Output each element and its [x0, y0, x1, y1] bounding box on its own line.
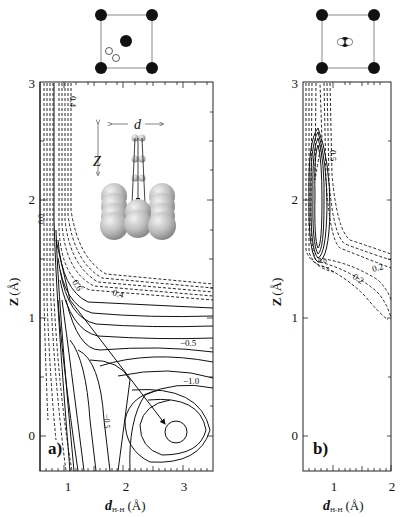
y-tick-label: 2: [292, 192, 299, 207]
y-tick-label: 1: [29, 310, 36, 325]
inset-schematic: Z d: [93, 117, 176, 240]
contour-label: −0.5: [180, 338, 197, 348]
hydrogen-atom-icon: [113, 55, 120, 62]
contour-label: 0.4: [111, 287, 125, 300]
contour-label: 0.2: [371, 261, 384, 274]
y-ticks-a: [40, 112, 213, 436]
positive-contours-b: [306, 83, 391, 320]
y-tick-label: 3: [29, 76, 36, 91]
y-tick-label: 0: [292, 428, 299, 443]
figure: 0.4 0.0 0.6 0.4 −0.5 −1.0 −0.5 Z d: [0, 0, 405, 517]
contour-label: 0.0: [318, 257, 327, 265]
x-tick-label: 1: [65, 479, 72, 494]
x-tick-label: 1: [331, 479, 338, 494]
positive-contours-a: [44, 83, 213, 471]
contour-label: −1.0: [183, 376, 200, 386]
x-axis-label-a: dH-H(Å): [105, 498, 146, 514]
surface-atom-icon: [95, 9, 107, 21]
hydrogen-atom-icon: [106, 48, 113, 55]
contour-label: −0.5: [102, 414, 111, 429]
contour-label: 0.4: [68, 96, 78, 108]
panel-b: 0.5 0.2 0.2 0.0 0 1 2 3 1 2 Z(Å) dH-H(Å)…: [269, 76, 395, 514]
surface-atom-icon: [368, 62, 380, 74]
panel-label-b: b): [313, 439, 328, 458]
surface-atom-icon: [95, 62, 107, 74]
schematic-b: [316, 9, 380, 74]
x-tick-label: 2: [389, 479, 396, 494]
hydrogen-atom-icon: [337, 38, 344, 45]
x-ticks-b: [309, 82, 391, 471]
negative-contours-a: [40, 82, 213, 471]
surface-atom-icon: [146, 62, 158, 74]
contour-label: 0.6: [70, 278, 85, 293]
y-tick-label: 2: [29, 192, 36, 207]
contour-label: 0.0: [37, 214, 46, 224]
y-axis-label-a: Z(Å): [6, 278, 21, 307]
panel-label-a: a): [48, 439, 62, 458]
x-tick-label: 2: [123, 479, 130, 494]
center-atom-icon: [120, 35, 132, 47]
panel-a: 0.4 0.0 0.6 0.4 −0.5 −1.0 −0.5 Z d: [6, 76, 213, 514]
negative-contours-b: [309, 128, 330, 262]
svg-text:Z(Å): Z(Å): [269, 278, 284, 307]
x-axis-label-b: dH-H(Å): [323, 498, 364, 514]
x-tick-label: 3: [181, 479, 188, 494]
surface-atom-icon: [368, 9, 380, 21]
surface-atom-icon: [316, 9, 328, 21]
y-tick-label: 0: [29, 428, 36, 443]
y-ticks-b: [303, 141, 391, 436]
surface-atom-icon: [316, 62, 328, 74]
hydrogen-atom-icon: [345, 38, 352, 45]
y-tick-label: 3: [292, 76, 299, 91]
inset-z-label: Z: [93, 154, 101, 169]
plot-frame-b: [303, 82, 391, 471]
svg-text:Z(Å): Z(Å): [6, 278, 21, 307]
contour-label: 0.5: [328, 150, 338, 162]
y-tick-label: 1: [292, 310, 299, 325]
y-axis-label-b: Z(Å): [269, 278, 284, 307]
surface-atom-icon: [146, 9, 158, 21]
inset-d-label: d: [134, 117, 142, 132]
contour-label: 0.2: [351, 271, 366, 286]
schematic-a: [95, 9, 158, 74]
